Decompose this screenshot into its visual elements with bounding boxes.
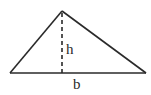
height-label: h bbox=[66, 42, 74, 57]
base-label: b bbox=[73, 77, 81, 92]
left-side bbox=[10, 11, 62, 73]
right-side bbox=[62, 11, 146, 73]
